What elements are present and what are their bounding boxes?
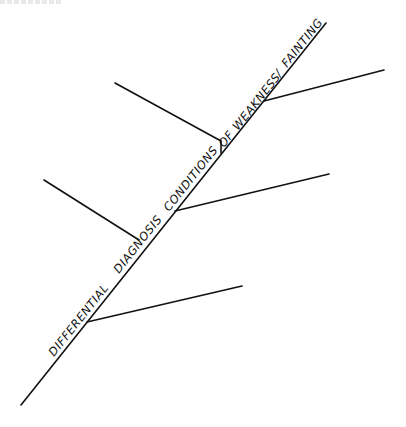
spine-word-differential: DIFFERENTIAL: [45, 281, 111, 359]
branch-middle-left: [44, 180, 139, 240]
spine-word-conditions: CONDITIONS: [160, 143, 220, 214]
spine-word-diagnosis: DIAGNOSIS: [110, 212, 165, 276]
fishbone-diagram: DIFFERENTIAL DIAGNOSIS CONDITIONS OF WEA…: [0, 0, 406, 427]
branch-upper-left: [115, 83, 221, 141]
spine-word-of: OF: [215, 128, 236, 150]
spine-word-fainting: FAINTING: [278, 15, 325, 69]
cropped-header-text: [0, 0, 62, 4]
spine-word-weakness: WEAKNESS: [229, 70, 283, 133]
branch-lower-right: [87, 286, 242, 322]
diagram-canvas: DIFFERENTIAL DIAGNOSIS CONDITIONS OF WEA…: [0, 0, 406, 427]
